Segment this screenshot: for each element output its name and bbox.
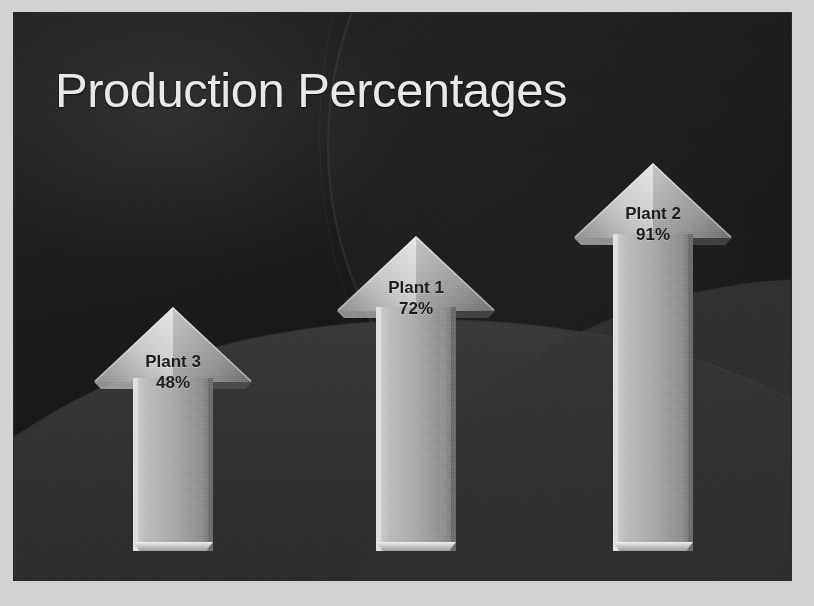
slide-canvas: Production Percentages [14, 13, 791, 580]
arrow-plant-3-shape [82, 303, 264, 551]
arrow-plant-3[interactable]: Plant 3 48% [82, 303, 264, 551]
arrow-plant-1[interactable]: Plant 1 72% [325, 232, 507, 551]
arrow-plant-2[interactable]: Plant 2 91% [562, 159, 744, 551]
slide-page: Production Percentages [0, 0, 814, 606]
page-title: Production Percentages [55, 65, 567, 116]
arrow-plant-1-shape [325, 232, 507, 551]
arrow-plant-2-shape [562, 159, 744, 551]
